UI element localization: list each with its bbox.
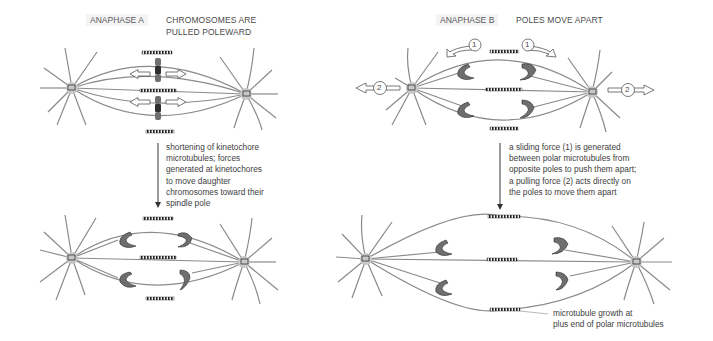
anaphase-a-title-line: PULLED POLEWARD: [166, 26, 256, 38]
anaphase-a-title: CHROMOSOMES ARE PULLED POLEWARD: [166, 14, 256, 38]
overlap-zone: [140, 89, 176, 92]
force-label-2: 2: [625, 84, 630, 96]
microtubule-growth-annotation: microtubule growth at plus end of polar …: [553, 308, 664, 330]
anaphase-a-title-line: CHROMOSOMES ARE: [166, 14, 256, 26]
force-label-1: 1: [472, 39, 477, 51]
description-line: a pulling force (2) acts directly on: [509, 176, 636, 187]
phase-tag-anaphase-a: ANAPHASE A: [86, 14, 148, 26]
annotation-line: microtubule growth at: [553, 308, 664, 319]
description-line: shortening of kinetochore: [166, 142, 264, 153]
annotation-line: plus end of polar microtubules: [553, 319, 664, 330]
description-line: chromosomes toward their: [166, 187, 264, 198]
daughter-chromosome-icon: [436, 238, 568, 296]
description-line: to move daughter: [166, 176, 264, 187]
description-line: opposite poles to push them apart;: [509, 164, 636, 175]
description-line: between polar microtubules from: [509, 153, 636, 164]
anaphase-b-title: POLES MOVE APART: [516, 14, 603, 26]
phase-tag-anaphase-b: ANAPHASE B: [436, 14, 498, 26]
overlap-zone: [142, 51, 172, 54]
description-line: spindle pole: [166, 198, 264, 209]
description-line: generated at kinetochores: [166, 164, 264, 175]
description-line: a sliding force (1) is generated: [509, 142, 636, 153]
force-label-2: 2: [377, 82, 382, 94]
anaphase-b-bottom-spindle: [336, 214, 672, 311]
force-label-1: 1: [525, 39, 530, 51]
description-line: the poles to move them apart: [509, 187, 636, 198]
anaphase-b-description: a sliding force (1) is generated between…: [509, 142, 636, 198]
description-line: microtubules; forces: [166, 153, 264, 164]
overlap-zone: [146, 130, 174, 133]
anaphase-a-description: shortening of kinetochore microtubules; …: [166, 142, 264, 209]
annotation-leader-line: [520, 311, 548, 314]
